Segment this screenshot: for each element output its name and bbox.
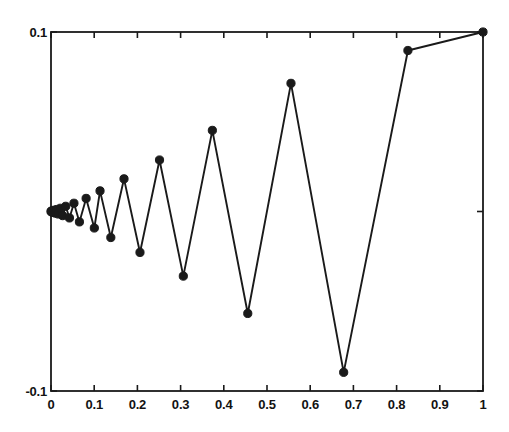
x-tick-label: 0.7 <box>345 397 362 412</box>
data-point-marker <box>120 175 128 183</box>
data-point-marker <box>136 248 144 256</box>
x-tick-label: 0 <box>47 397 54 412</box>
chart-plot-area <box>0 0 509 432</box>
x-tick-label: 0.6 <box>301 397 318 412</box>
x-tick-label: 1 <box>479 397 486 412</box>
x-tick-label: 0.9 <box>431 397 448 412</box>
data-point-marker <box>82 194 90 202</box>
data-point-marker <box>287 79 295 87</box>
data-point-marker <box>62 202 70 210</box>
x-tick-label: 0.3 <box>172 397 189 412</box>
figure-container: 00.10.20.30.40.50.60.70.80.91 0.1-0.1 <box>0 0 509 432</box>
data-point-marker <box>479 28 487 36</box>
data-point-marker <box>208 126 216 134</box>
figure-background <box>0 0 509 432</box>
x-tick-label: 0.8 <box>388 397 405 412</box>
x-tick-label: 0.5 <box>258 397 275 412</box>
data-point-marker <box>107 233 115 241</box>
data-point-marker <box>90 224 98 232</box>
data-point-marker <box>65 214 73 222</box>
y-tick-label: -0.1 <box>25 384 47 399</box>
data-point-marker <box>244 309 252 317</box>
data-point-marker <box>75 218 83 226</box>
y-tick-label: 0.1 <box>30 25 47 40</box>
data-point-marker <box>96 187 104 195</box>
data-point-marker <box>179 272 187 280</box>
data-point-marker <box>70 199 78 207</box>
data-point-marker <box>404 46 412 54</box>
data-point-marker <box>155 156 163 164</box>
x-tick-label: 0.1 <box>85 397 102 412</box>
x-tick-label: 0.2 <box>129 397 146 412</box>
x-tick-label: 0.4 <box>215 397 232 412</box>
data-point-marker <box>340 368 348 376</box>
